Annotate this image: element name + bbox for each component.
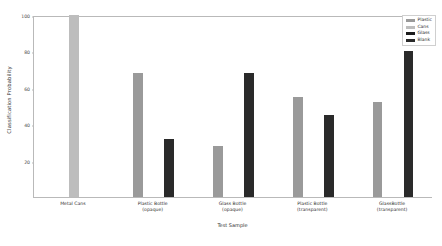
- y-tick-mark: [32, 162, 35, 163]
- legend-label: Plastic: [417, 18, 432, 23]
- legend-item: Blank: [406, 38, 432, 43]
- bar: [164, 139, 174, 197]
- bar: [133, 73, 143, 197]
- x-tick-label: Plastic Bottle (transparent): [273, 201, 351, 213]
- y-tick-label: 20: [14, 160, 30, 165]
- legend-label: Glass: [417, 31, 429, 36]
- plot-area: 20406080100: [33, 16, 432, 198]
- y-axis-title: Classification Probability: [2, 0, 16, 200]
- legend-swatch: [406, 39, 415, 42]
- legend-label: Blank: [417, 38, 430, 43]
- y-tick-label: 80: [14, 51, 30, 56]
- bar: [213, 146, 223, 197]
- bar: [373, 102, 383, 197]
- plot-inner: 20406080100: [34, 17, 432, 197]
- bar-chart: Classification Probability 20406080100 M…: [0, 0, 442, 246]
- y-tick-label: 40: [14, 124, 30, 129]
- bar: [293, 97, 303, 197]
- legend-item: Cans: [406, 25, 432, 30]
- bar: [324, 115, 334, 197]
- legend-swatch: [406, 26, 415, 29]
- x-tick-label: Plastic Bottle (opaque): [114, 201, 192, 213]
- x-tick-label: GlassBottle (transparent): [353, 201, 431, 213]
- legend-swatch: [406, 19, 415, 22]
- y-tick-label: 100: [14, 15, 30, 20]
- y-tick-mark: [32, 17, 35, 18]
- y-tick-mark: [32, 53, 35, 54]
- y-tick-label: 60: [14, 88, 30, 93]
- x-axis-title: Test Sample: [33, 222, 432, 228]
- y-tick-mark: [32, 126, 35, 127]
- bar: [69, 15, 79, 197]
- x-tick-label: Metal Cans: [34, 201, 112, 207]
- legend-swatch: [406, 32, 415, 35]
- bar: [404, 51, 414, 197]
- legend: PlasticCansGlassBlank: [402, 15, 436, 46]
- y-tick-mark: [32, 89, 35, 90]
- x-tick-label: Glass Bottle (opaque): [194, 201, 272, 213]
- legend-label: Cans: [417, 25, 428, 30]
- legend-item: Glass: [406, 31, 432, 36]
- legend-item: Plastic: [406, 18, 432, 23]
- bar: [244, 73, 254, 197]
